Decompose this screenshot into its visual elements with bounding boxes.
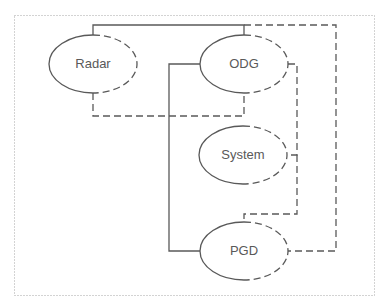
- edge-system-pgd-dashed: [244, 155, 297, 222]
- diagram-canvas: [0, 0, 387, 307]
- node-label-radar: Radar: [48, 56, 138, 72]
- edge-odg-system-dashed: [287, 64, 297, 155]
- edge-radar-odg-solid: [93, 25, 244, 35]
- edge-odg-pgd-solid: [169, 64, 200, 251]
- node-label-pgd: PGD: [199, 243, 289, 259]
- node-label-odg: ODG: [199, 56, 289, 72]
- node-label-system: System: [198, 147, 288, 163]
